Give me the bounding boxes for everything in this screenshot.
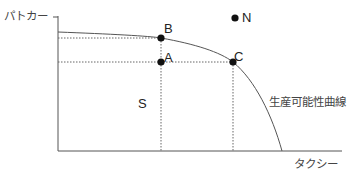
point-n xyxy=(231,14,238,21)
x-axis-label: タクシー xyxy=(294,159,338,171)
diagram-canvas xyxy=(0,0,355,171)
point-a-label: A xyxy=(164,51,173,64)
point-n-label: N xyxy=(242,11,251,24)
y-axis-label: パトカー xyxy=(4,11,48,23)
point-c-label: C xyxy=(234,50,243,63)
production-possibility-diagram: パトカー タクシー 生産可能性曲線 S B A C N xyxy=(0,0,355,171)
curve-label: 生産可能性曲線 xyxy=(269,97,346,109)
region-s-label: S xyxy=(138,97,147,110)
point-b-label: B xyxy=(164,22,173,35)
